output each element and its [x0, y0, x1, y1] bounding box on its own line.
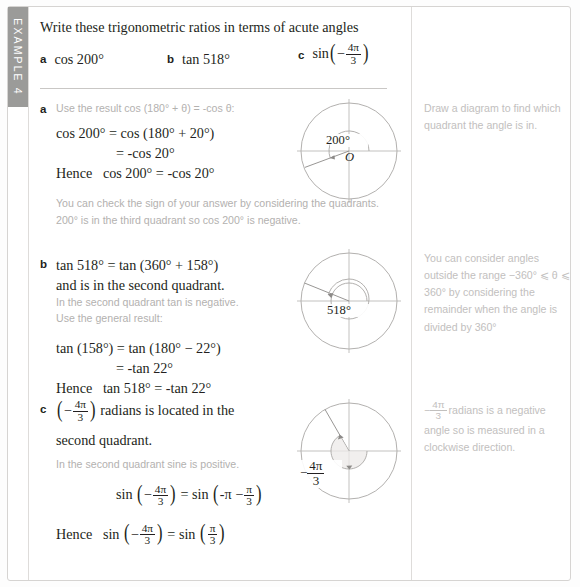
fraction-4pi-over-3: 4π3 [140, 523, 155, 547]
fraction-4pi-over-3: 4π3 [73, 399, 88, 423]
solution-b-line4: = -tan 22° [56, 358, 385, 378]
diagram-angle-200: 200° O [294, 96, 404, 206]
diagram-angle-518-label: 518° [327, 303, 351, 318]
margin-note-a: Draw a diagram to find which quadrant th… [424, 100, 572, 134]
fraction-pi-over-3: π3 [208, 523, 218, 547]
solution-b-hence-expr: tan 518° = -tan 22° [103, 380, 211, 396]
diagram-angle-518: 518° [294, 246, 404, 356]
diagram-angle-neg-4pi-3-svg [294, 396, 404, 506]
sin-label-lhs: sin [103, 526, 120, 542]
fraction-denominator: 3 [349, 55, 359, 67]
question-part-b-expr: tan 518° [182, 49, 230, 69]
fraction-denominator: 3 [156, 496, 166, 508]
question-part-c-expr: sin(−4π3) [312, 43, 369, 67]
minus-sign: − [300, 465, 307, 480]
terminal-radius [305, 151, 349, 167]
fraction-4pi-over-3: 4π3 [153, 484, 168, 508]
fraction-denominator: 3 [208, 535, 218, 547]
margin-notes-divider [411, 7, 412, 580]
margin-note-c: −4π3radians is a negative angle so is me… [424, 400, 572, 456]
equals-sign: = [180, 487, 188, 503]
solution-a-hence-expr: cos 200° = -cos 20° [103, 165, 215, 181]
question-part-b-letter: b [167, 53, 174, 65]
diagram-angle-neg-4pi-3: −4π3 [294, 396, 404, 506]
arc-arrowhead [328, 293, 334, 298]
solution-b-hence-label: Hence [56, 380, 92, 396]
margin-note-b: You can consider angles outside the rang… [424, 250, 572, 336]
fraction-denominator: 3 [434, 411, 444, 421]
fraction-4pi-over-3: 4π3 [307, 459, 324, 487]
fraction-denominator: 3 [311, 474, 322, 488]
fraction-4pi-over-3: 4π3 [430, 400, 446, 422]
solution-a-hence-label: Hence [56, 165, 92, 181]
diagram-origin-label: O [345, 150, 354, 165]
minus-pi-term: -π − [220, 487, 243, 503]
sin-label: sin [312, 45, 329, 61]
example-tab: EXAMPLE 4 [8, 7, 28, 107]
sin-label-lhs: sin [116, 487, 133, 503]
fraction-denominator: 3 [76, 412, 86, 424]
solution-c-hence: Hence sin (−4π3) = sin (π3) [56, 524, 385, 548]
question-divider [40, 88, 387, 89]
example-tab-label: EXAMPLE 4 [12, 18, 24, 95]
question-prompt: Write these trigonometric ratios in term… [40, 18, 390, 36]
question-part-a: a cos 200° [40, 49, 104, 69]
solution-c-line1-suffix: radians is located in the [100, 402, 234, 418]
question-part-b: b tan 518° [167, 49, 230, 69]
diagram-angle-200-label: 200° [326, 133, 350, 148]
sin-label-rhs: sin [192, 487, 209, 503]
terminal-radius [305, 283, 350, 301]
content-left-divider [28, 7, 29, 580]
fraction-denominator: 3 [143, 535, 153, 547]
fraction-denominator: 3 [244, 496, 254, 508]
fraction-numerator: 4π [307, 459, 324, 474]
question-part-a-letter: a [40, 53, 46, 65]
question-part-c: c sin(−4π3) [298, 43, 370, 67]
page-root: EXAMPLE 4 Write these trigonometric rati… [0, 0, 580, 587]
fraction-pi-over-3: π3 [244, 484, 254, 508]
equals-sign: = [167, 526, 175, 542]
question-part-a-expr: cos 200° [54, 49, 103, 69]
fraction-numerator: 4π [346, 42, 361, 55]
question-part-c-letter: c [298, 49, 304, 61]
solution-c-hence-label: Hence [56, 526, 92, 542]
solution-c-letter: c [40, 400, 56, 415]
minus-sign: − [144, 487, 152, 503]
solution-a-letter: a [40, 100, 56, 115]
solution-b-letter: b [40, 255, 56, 270]
fraction-4pi-over-3: 4π3 [346, 42, 361, 66]
minus-sign: − [64, 402, 72, 418]
minus-sign: − [337, 45, 345, 61]
diagram-angle-518-svg [294, 246, 404, 356]
diagram-angle-neg-4pi-3-label: −4π3 [300, 460, 326, 488]
minus-sign: − [131, 526, 139, 542]
question-parts: a cos 200° b tan 518° c sin(−4π3) [40, 47, 390, 83]
fraction-numerator: 4π [73, 399, 88, 412]
sin-label-rhs: sin [179, 526, 196, 542]
